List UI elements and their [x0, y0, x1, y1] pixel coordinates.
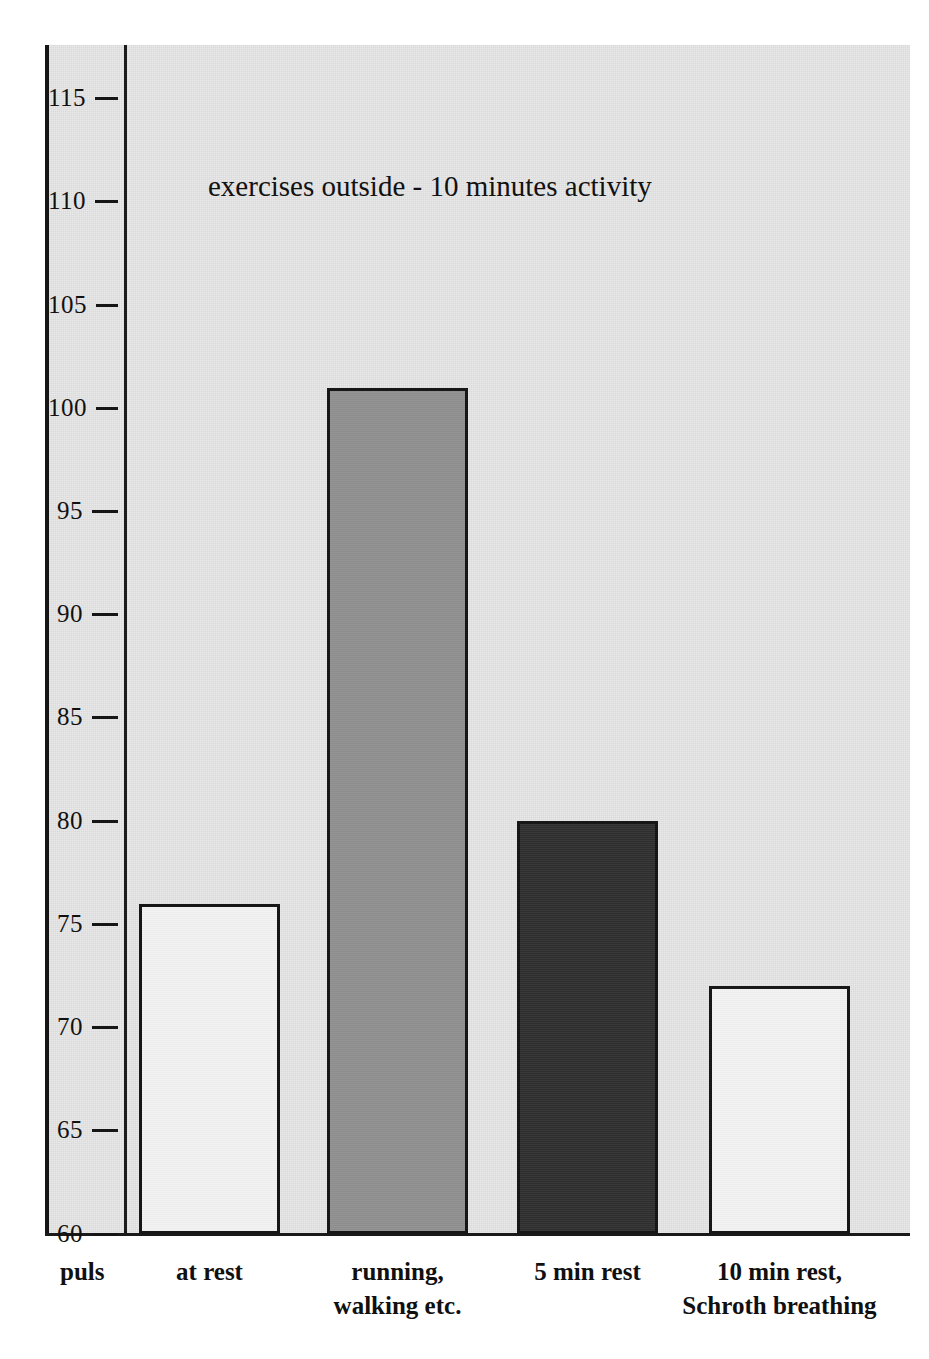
y-axis-line	[124, 45, 127, 1236]
bar-chart-figure: 1151101051009590858075706560 exercises o…	[0, 0, 929, 1359]
y-tick-label: 70	[57, 1014, 83, 1039]
y-tick-mark	[92, 1129, 118, 1132]
category-label-4: 10 min rest,Schroth breathing	[669, 1255, 890, 1323]
category-label-line1: running,	[351, 1258, 443, 1285]
y-tick-mark	[92, 923, 118, 926]
y-tick-label: 115	[48, 85, 86, 110]
bar-1	[139, 904, 280, 1234]
y-tick-label: 80	[57, 808, 83, 833]
y-tick-mark	[92, 613, 118, 616]
y-tick-mark	[95, 97, 118, 100]
category-label-2: running,walking etc.	[287, 1255, 508, 1323]
left-spine	[45, 45, 49, 1236]
y-tick-mark	[92, 820, 118, 823]
bar-4	[709, 986, 850, 1234]
y-tick-mark	[92, 1026, 118, 1029]
y-tick-label: 65	[57, 1117, 83, 1142]
y-tick-label: 105	[48, 292, 87, 317]
category-label-line2: Schroth breathing	[669, 1289, 890, 1323]
y-tick-label: 100	[48, 395, 87, 420]
bar-2	[327, 388, 468, 1234]
y-tick-mark	[96, 407, 118, 410]
category-label-line1: 10 min rest,	[717, 1258, 842, 1285]
y-tick-label: 90	[57, 601, 83, 626]
y-tick-label: 85	[57, 704, 83, 729]
bar-3	[517, 821, 658, 1234]
category-label-line1: at rest	[176, 1258, 243, 1285]
y-tick-mark	[92, 1233, 118, 1236]
y-tick-label: 95	[57, 498, 83, 523]
chart-title: exercises outside - 10 minutes activity	[208, 170, 652, 203]
y-tick-label: 110	[48, 188, 86, 213]
y-tick-mark	[92, 510, 118, 513]
y-tick-label: 75	[57, 911, 83, 936]
y-tick-mark	[96, 304, 118, 307]
y-tick-label: 60	[57, 1221, 83, 1246]
category-label-line1: 5 min rest	[534, 1258, 640, 1285]
category-label-line2: walking etc.	[287, 1289, 508, 1323]
y-tick-mark	[92, 716, 118, 719]
y-tick-mark	[95, 200, 118, 203]
y-axis-title: puls	[60, 1255, 104, 1289]
category-label-3: 5 min rest	[477, 1255, 698, 1289]
